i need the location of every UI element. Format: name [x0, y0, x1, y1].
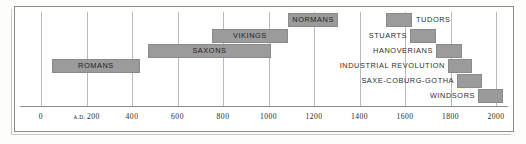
tick-label-600: 600	[153, 112, 203, 121]
tick-label-800: 800	[198, 112, 248, 121]
tick-label-2000: 2000	[471, 112, 521, 121]
x-axis-line	[20, 106, 508, 107]
bar-label-industrial-revolution: INDUSTRIAL REVOLUTION	[0, 59, 445, 73]
bar-windsors[interactable]	[478, 89, 503, 103]
timeline-figure: NORMANSTUDORSVIKINGSSTUARTSSAXONSHANOVER…	[0, 0, 526, 144]
bar-label-hanoverians: HANOVERIANS	[0, 44, 433, 58]
tick-label-1000: 1000	[244, 112, 294, 121]
bar-label-tudors: TUDORS	[416, 13, 451, 27]
timeline-plot-area: NORMANSTUDORSVIKINGSSTUARTSSAXONSHANOVER…	[0, 0, 526, 144]
bar-label-saxe-coburg-gotha: SAXE-COBURG-GOTHA	[0, 74, 454, 88]
bar-hanoverians[interactable]	[436, 44, 462, 58]
bar-label-stuarts: STUARTS	[0, 29, 407, 43]
bar-tudors[interactable]	[386, 13, 412, 27]
tick-label-1800: 1800	[426, 112, 476, 121]
tick-label-1400: 1400	[335, 112, 385, 121]
tick-label-1200: 1200	[289, 112, 339, 121]
bar-label-normans: NORMANS	[288, 13, 338, 27]
bar-label-windsors: WINDSORS	[0, 89, 475, 103]
bar-saxe-coburg-gotha[interactable]	[457, 74, 482, 88]
tick-label-1600: 1600	[380, 112, 430, 121]
bar-stuarts[interactable]	[410, 29, 436, 43]
tick-label-400: 400	[107, 112, 157, 121]
tick-label-200: A.D. 200	[62, 112, 112, 121]
tick-prefix-ad: A.D.	[73, 114, 87, 120]
tick-label-0: 0	[16, 112, 66, 121]
bar-industrial-revolution[interactable]	[448, 59, 472, 73]
